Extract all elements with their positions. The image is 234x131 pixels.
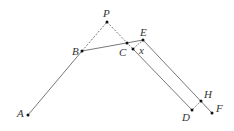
geometry-diagram: A B P C E D H F x <box>0 0 234 131</box>
dashed-segment-HD <box>192 101 201 110</box>
diagram-svg: A B P C E D H F x <box>0 0 234 131</box>
dashed-segment-BP <box>82 22 107 51</box>
dashed-segment-PC <box>107 22 133 49</box>
point-F <box>211 112 214 115</box>
label-C: C <box>119 46 127 58</box>
angle-label-x: x <box>138 44 144 56</box>
point-C2 <box>132 48 135 51</box>
point-C <box>126 42 129 45</box>
segment-CD <box>133 49 192 110</box>
label-F: F <box>215 102 223 114</box>
label-H: H <box>203 88 213 100</box>
label-E: E <box>139 26 147 38</box>
point-E <box>142 39 145 42</box>
label-D: D <box>181 111 190 123</box>
point-H <box>200 100 203 103</box>
segment-AB <box>28 51 82 115</box>
point-B <box>81 50 84 53</box>
point-A <box>27 114 30 117</box>
label-P: P <box>102 7 110 19</box>
label-B: B <box>72 45 79 57</box>
label-A: A <box>16 107 24 119</box>
point-P <box>106 21 109 24</box>
point-D <box>191 109 194 112</box>
